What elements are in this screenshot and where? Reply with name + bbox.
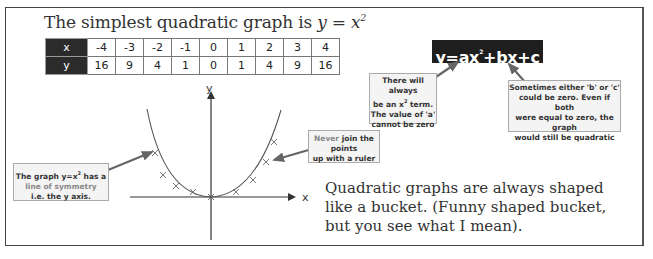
arrow-to-ruler — [274, 149, 312, 160]
y-axis-label: y — [206, 82, 213, 95]
note-line-of-symmetry: The graph y=x2 has a line of symmetry i.… — [13, 163, 109, 201]
note-a-term: There will always be an x2 term. The val… — [369, 73, 437, 124]
arrow-to-symmetry — [108, 152, 152, 170]
bucket-explanation: Quadratic graphs are always shaped like … — [325, 179, 645, 236]
note-never-ruler: Never join the points up with a ruler — [308, 130, 380, 163]
note-b-c-zero: Sometimes either 'b' or 'c' could be zer… — [508, 80, 621, 132]
parabola-curve — [147, 109, 281, 197]
x-axis-label: x — [302, 191, 309, 204]
plotted-points — [152, 139, 277, 200]
